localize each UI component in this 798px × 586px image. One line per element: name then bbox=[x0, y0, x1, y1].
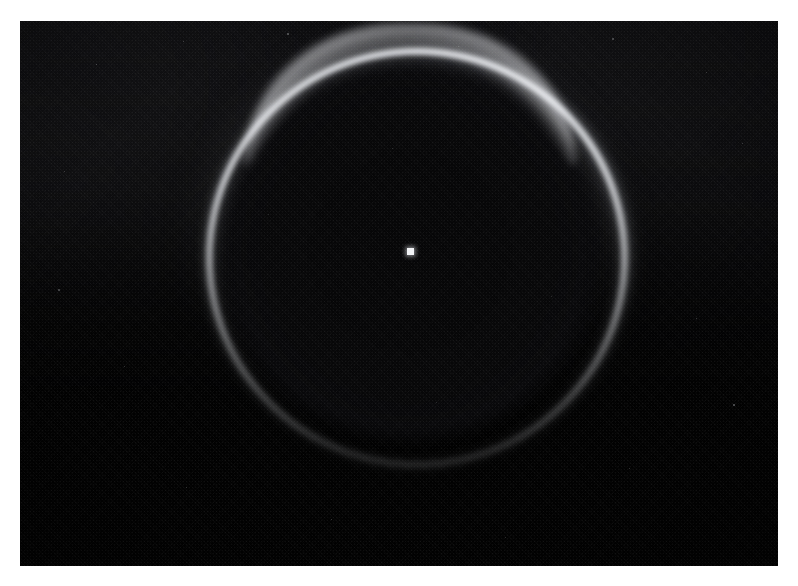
screenshot-root bbox=[0, 0, 798, 586]
central-point-source bbox=[407, 248, 414, 255]
astronomical-image-plate bbox=[20, 21, 778, 566]
limb-ring-group bbox=[20, 21, 778, 566]
